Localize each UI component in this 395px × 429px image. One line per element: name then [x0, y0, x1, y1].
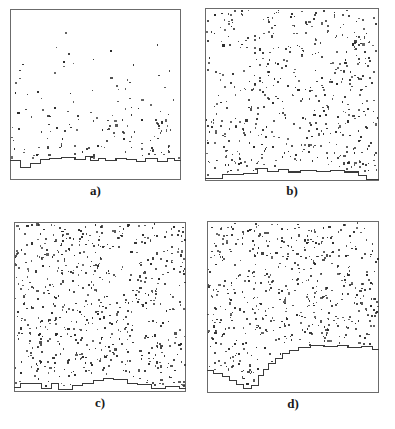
panel-c-label: c)	[14, 395, 186, 411]
panel-b-plot	[205, 8, 379, 181]
panel-a	[10, 9, 181, 180]
panel-d-label: d)	[207, 396, 379, 412]
panel-b	[205, 8, 379, 181]
panel-a-plot	[10, 9, 181, 180]
panel-d-plot	[207, 221, 379, 393]
panel-d-particle-field	[207, 222, 379, 385]
panel-a-label: a)	[10, 183, 181, 199]
panel-b-label: b)	[205, 183, 379, 199]
panel-c	[14, 222, 186, 392]
panel-d	[207, 221, 379, 393]
figure-container: a) b) c) d)	[0, 0, 395, 429]
panel-c-particle-field	[15, 223, 186, 387]
panel-a-interface-line	[10, 156, 181, 167]
panel-b-particle-field	[206, 10, 378, 176]
panel-c-plot	[14, 222, 186, 392]
panel-a-particle-field	[11, 32, 180, 159]
